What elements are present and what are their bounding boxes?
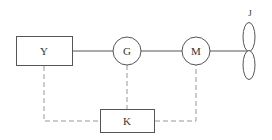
propeller-blade-bottom <box>243 51 255 80</box>
node-m-label: M <box>191 45 201 57</box>
node-j-label: J <box>248 8 252 18</box>
node-k: K <box>101 110 155 133</box>
node-g: G <box>113 37 141 65</box>
edge-m-k <box>155 65 196 121</box>
node-m: M <box>182 37 210 65</box>
node-y: Y <box>17 37 73 66</box>
edge-y-k <box>44 66 100 121</box>
node-k-label: K <box>123 115 131 127</box>
node-g-label: G <box>123 45 131 57</box>
node-y-label: Y <box>40 45 48 57</box>
propeller-blade-top <box>243 23 255 52</box>
block-diagram: Y G M J K <box>0 0 272 140</box>
node-j: J <box>243 8 255 80</box>
